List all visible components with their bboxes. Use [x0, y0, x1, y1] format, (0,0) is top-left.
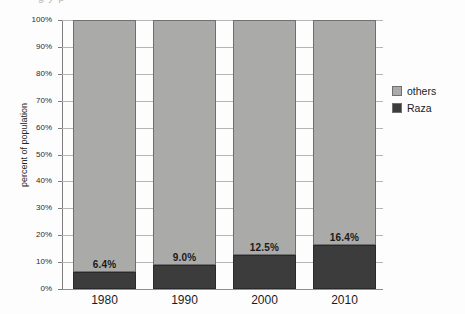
y-axis-tick-label: 30% — [12, 204, 52, 212]
bar-group[interactable]: 12.5% — [233, 20, 296, 289]
x-axis-label: 2010 — [307, 293, 382, 307]
plot-area: 6.4%9.0%12.5%16.4% — [62, 20, 383, 289]
gridline — [62, 289, 383, 290]
stacked-bar-chart: g y p percent of population 0%10%20%30%4… — [0, 0, 465, 314]
y-axis-tick-label: 50% — [12, 151, 52, 159]
bar-data-label: 16.4% — [313, 232, 376, 243]
y-axis-tick-label: 10% — [12, 258, 52, 266]
y-axis-tick-label: 20% — [12, 231, 52, 239]
bar-data-label: 9.0% — [153, 252, 216, 263]
bar-group[interactable]: 6.4% — [73, 20, 136, 289]
y-axis-tick-label: 70% — [12, 97, 52, 105]
bar-segment-raza[interactable] — [73, 272, 136, 289]
clipped-title-strip: g y p — [0, 0, 465, 9]
y-axis-tick-label: 40% — [12, 177, 52, 185]
bar-segment-raza[interactable] — [153, 265, 216, 289]
bar-data-label: 12.5% — [233, 242, 296, 253]
bar-group[interactable]: 16.4% — [313, 20, 376, 289]
x-axis-label: 2000 — [227, 293, 302, 307]
bar-segment-others[interactable] — [233, 20, 296, 255]
bar-group[interactable]: 9.0% — [153, 20, 216, 289]
clipped-title-text: g y p — [38, 0, 65, 3]
bar-data-label: 6.4% — [73, 259, 136, 270]
legend-item[interactable]: Raza — [392, 99, 462, 116]
bar-segment-others[interactable] — [313, 20, 376, 245]
legend-label: Raza — [407, 102, 432, 114]
bar-segment-others[interactable] — [73, 20, 136, 272]
bar-segment-others[interactable] — [153, 20, 216, 265]
bar-segment-raza[interactable] — [313, 245, 376, 289]
legend-swatch-icon — [392, 86, 402, 96]
y-axis-tick-label: 60% — [12, 124, 52, 132]
x-axis-label: 1990 — [147, 293, 222, 307]
y-axis-tick-label: 100% — [12, 16, 52, 24]
y-axis-tick-label: 0% — [12, 285, 52, 293]
y-axis-tick-label: 90% — [12, 43, 52, 51]
legend-label: others — [407, 85, 436, 97]
y-axis-tick-mark — [58, 289, 62, 290]
y-axis-tick-label: 80% — [12, 70, 52, 78]
bar-segment-raza[interactable] — [233, 255, 296, 289]
x-axis-label: 1980 — [67, 293, 142, 307]
chart-legend: othersRaza — [392, 82, 462, 116]
legend-item[interactable]: others — [392, 82, 462, 99]
legend-swatch-icon — [392, 103, 402, 113]
